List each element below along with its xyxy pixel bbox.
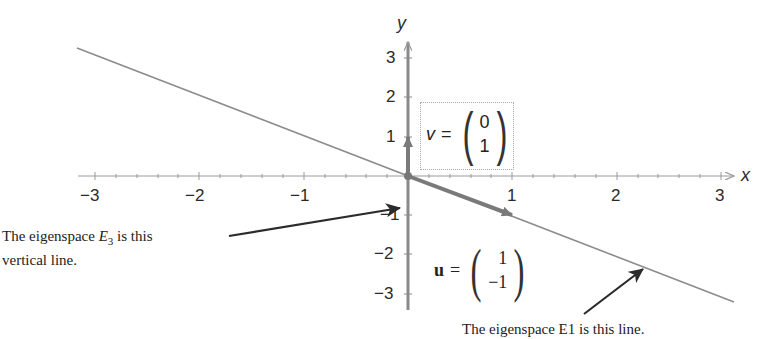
eigenspace-e3-caption: The eigenspace E3 is this vertical line. <box>2 227 232 270</box>
arrow-to-e1 <box>584 269 643 314</box>
component: 1 <box>498 246 507 270</box>
left-paren: ( <box>471 240 482 300</box>
caption-eigenspace-symbol: E <box>99 228 108 244</box>
x-tick-label: 2 <box>611 187 620 204</box>
caption-text: The eigenspace <box>2 228 99 244</box>
caption-text: vertical line. <box>2 252 77 268</box>
origin-point <box>404 172 412 180</box>
vector-u-components: 1 −1 <box>486 246 509 294</box>
equals-sign: = <box>441 124 452 145</box>
x-tick-label: −1 <box>290 187 309 204</box>
right-paren: ) <box>496 104 507 164</box>
caption-text: is this <box>113 228 152 244</box>
y-tick-label: −3 <box>374 285 393 302</box>
equals-sign: = <box>450 260 460 281</box>
x-tick-label: 3 <box>715 187 724 204</box>
vector-u-name: u <box>434 260 444 281</box>
component: 0 <box>480 110 490 134</box>
eigenspace-e1-caption: The eigenspace E1 is this line. <box>462 320 644 339</box>
x-tick-label: −2 <box>185 187 204 204</box>
y-tick-label: −2 <box>374 245 393 262</box>
vector-u <box>408 176 512 215</box>
x-axis-label: x <box>741 166 750 184</box>
vector-v-label: v = ( 0 1 ) <box>426 104 512 164</box>
arrow-to-e3 <box>229 208 400 236</box>
left-paren: ( <box>462 104 473 164</box>
component: 1 <box>480 134 490 158</box>
vector-v-name: v <box>426 124 435 145</box>
x-tick-label: −3 <box>80 187 99 204</box>
component: −1 <box>488 270 507 294</box>
y-tick-label: 2 <box>386 88 395 105</box>
y-tick-label: 3 <box>386 49 395 66</box>
x-tick-label: 1 <box>507 187 516 204</box>
y-axis-label: y <box>397 14 406 32</box>
vector-v-components: 0 1 <box>478 110 492 158</box>
vector-u-label: u = ( 1 −1 ) <box>434 240 529 300</box>
right-paren: ) <box>514 240 525 300</box>
y-tick-label: 1 <box>386 128 395 145</box>
y-tick-label: −1 <box>380 206 399 223</box>
